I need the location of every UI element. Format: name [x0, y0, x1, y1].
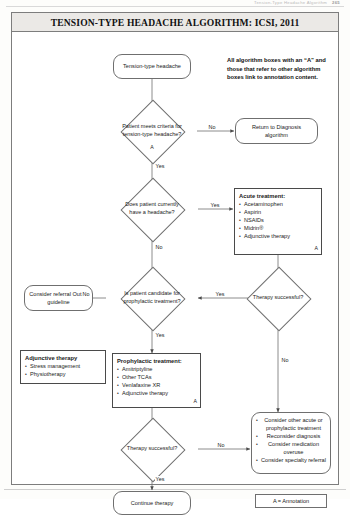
node-label: Continue therapy: [131, 499, 174, 507]
running-head: Tension-Type Headache Algorithm265: [254, 0, 340, 5]
figure-title: TENSION-TYPE HEADACHE ALGORITHM: ICSI, 2…: [12, 13, 338, 32]
decision-current-headache: Does patient currently have a headache?: [121, 187, 183, 231]
prophylactic-treatment-list: Amitriptyline Other TCAs Venlafaxine XR …: [117, 366, 196, 398]
decision-label: Therapy successful?: [250, 276, 306, 320]
decision-meets-criteria: Patient meets criteria for tension-type …: [121, 109, 183, 153]
edge-label-criteria-no: No: [208, 124, 216, 130]
edge-label-headache-no: No: [155, 244, 163, 250]
box-title: Adjunctive therapy: [25, 354, 101, 363]
node-consider-referral: Consider referral Out of guideline: [24, 285, 93, 311]
annotation-note: All algorithm boxes with an “A” and thos…: [227, 56, 331, 82]
node-tension-type-headache: Tension-type headache: [113, 54, 191, 79]
list-item: Amitriptyline: [117, 366, 196, 374]
decision-therapy-successful-lower: Therapy successful?: [112, 427, 192, 471]
list-item: Adjunctive therapy: [239, 233, 317, 241]
page-rule-bottom: [4, 489, 346, 490]
adjunctive-therapy-list: Stress management Physiotherapy: [25, 363, 101, 379]
list-item: Consider specialty referral: [256, 457, 326, 465]
box-prophylactic-treatment: Prophylactic treatment: Amitriptyline Ot…: [112, 353, 201, 408]
list-item: Adjunctive therapy: [117, 390, 196, 398]
consider-other-list: Consider other acute or prophylactic tre…: [256, 417, 326, 465]
box-title: Acute treatment:: [239, 192, 317, 201]
list-item: Other TCAs: [117, 374, 196, 382]
flowchart-canvas: All algorithm boxes with an “A” and thos…: [12, 32, 338, 484]
list-item: Consider other acute or prophylactic tre…: [256, 417, 326, 433]
list-item: NSAIDs: [239, 217, 317, 225]
list-item: Physiotherapy: [25, 371, 101, 379]
decision-label: Does patient currently have a headache?: [121, 187, 183, 231]
decision-therapy-successful-upper: Therapy successful?: [250, 276, 306, 320]
node-label: Return to Diagnosis algorithm: [240, 123, 313, 139]
edge-label-therapy-upper-no: No: [281, 357, 289, 363]
running-head-text: Tension-Type Headache Algorithm: [254, 0, 327, 5]
node-continue-therapy: Continue therapy: [113, 491, 191, 515]
node-label: Tension-type headache: [123, 62, 181, 70]
list-item: Stress management: [25, 363, 101, 371]
decision-prophylactic-candidate: Is patient candidate for prophylactic tr…: [106, 276, 198, 320]
box-adjunctive-therapy: Adjunctive therapy Stress management Phy…: [20, 350, 106, 384]
decision-label: Therapy successful?: [112, 427, 192, 471]
list-item: Venlafaxine XR: [117, 382, 196, 390]
legend-label: A = Annotation: [273, 498, 309, 504]
edge-label-criteria-yes: Yes: [155, 163, 165, 169]
decision-label: Is patient candidate for prophylactic tr…: [106, 276, 198, 320]
page-rule-top: [6, 6, 344, 7]
box-acute-treatment: Acute treatment: Acetaminophen Aspirin N…: [234, 188, 322, 255]
acute-treatment-list: Acetaminophen Aspirin NSAIDs Midrin® Adj…: [239, 201, 317, 241]
box-title: Prophylactic treatment:: [117, 357, 196, 366]
edge-label-prophylactic-no: No: [82, 291, 90, 297]
algorithm-figure: TENSION-TYPE HEADACHE ALGORITHM: ICSI, 2…: [11, 12, 339, 485]
edge-label-prophylactic-yes: Yes: [155, 332, 165, 338]
list-item: Aspirin: [239, 209, 317, 217]
node-return-to-diagnosis: Return to Diagnosis algorithm: [235, 118, 318, 144]
list-item: Midrin®: [239, 225, 317, 233]
edge-label-therapy-lower-yes: Yes: [155, 476, 165, 482]
edge-label-headache-yes: Yes: [210, 202, 220, 208]
box-consider-other-options: Consider other acute or prophylactic tre…: [251, 412, 331, 474]
node-label: Consider referral Out of guideline: [29, 290, 88, 306]
legend-annotation: A = Annotation: [255, 494, 327, 508]
annotation-marker: A: [150, 144, 153, 150]
edge-label-therapy-upper-yes: Yes: [215, 291, 225, 297]
page-number: 265: [332, 0, 340, 5]
list-item: Acetaminophen: [239, 201, 317, 209]
list-item: Consider medication overuse: [256, 441, 326, 457]
edge-label-therapy-lower-no: No: [217, 442, 225, 448]
annotation-marker: A: [315, 245, 318, 253]
list-item: Reconsider diagnosis: [256, 433, 326, 441]
annotation-marker: A: [194, 398, 197, 406]
